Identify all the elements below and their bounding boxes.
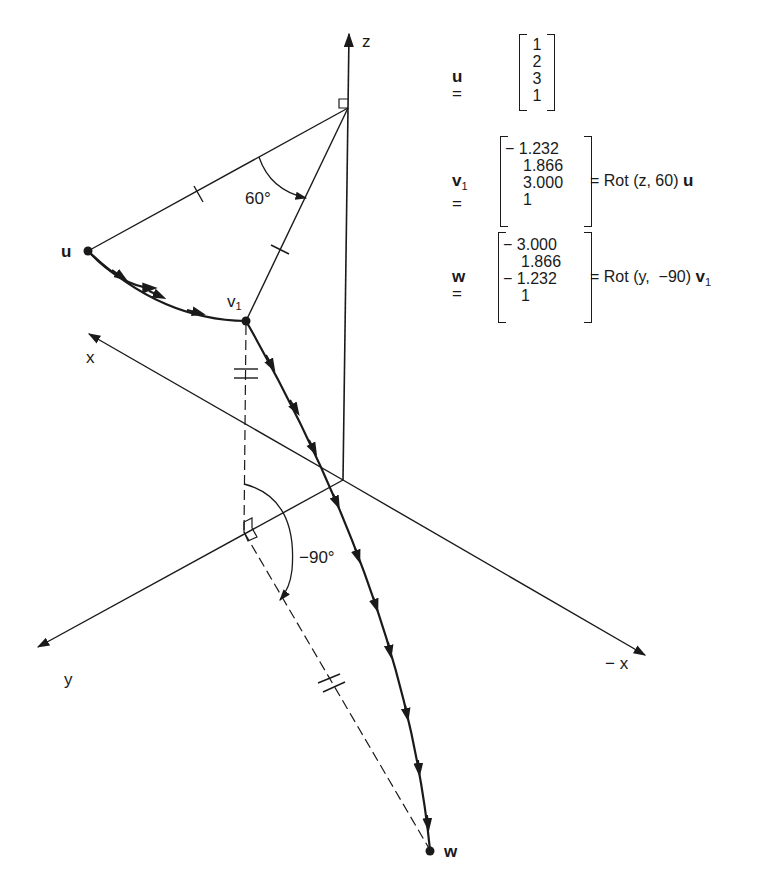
v1-component: 3.000	[505, 174, 585, 191]
y-axis	[38, 480, 343, 647]
path-u-to-v1	[88, 251, 150, 288]
v1-component: 1	[505, 191, 585, 208]
w-component: − 1.232	[503, 270, 585, 287]
double-tick-w-line	[318, 674, 345, 692]
u-component: 2	[523, 53, 551, 70]
u-component: 1	[523, 87, 551, 104]
angle-neg90-label: −90°	[299, 548, 335, 567]
eq-u-equals: =	[452, 84, 462, 103]
neg-x-axis-label: − x	[605, 654, 629, 673]
point-u	[84, 247, 93, 256]
x-axis-label: x	[86, 348, 95, 367]
vector-v1-matrix: − 1.232 1.866 3.000 1	[500, 136, 592, 227]
eq-v1-equals: =	[452, 194, 462, 213]
u-component: 1	[523, 36, 551, 53]
u-component: 3	[523, 70, 551, 87]
radius-to-u	[88, 108, 348, 251]
z-axis-label: z	[362, 32, 371, 51]
tick-mark-v1-radius	[271, 245, 289, 254]
path-v1-to-w	[246, 321, 430, 850]
angle-60-label: 60°	[245, 189, 271, 208]
v1-component: 1.866	[505, 157, 585, 174]
angle-arc-neg90	[244, 484, 293, 600]
z-axis	[343, 34, 349, 480]
w-rotation-expression: = Rot (y, −90) v1	[590, 268, 711, 291]
v1-rotation-expression: = Rot (z, 60) u	[590, 172, 693, 189]
w-component: 1.866	[503, 253, 585, 270]
dashed-v1-drop	[244, 325, 246, 532]
right-angle-marker-z	[339, 99, 348, 108]
radius-to-v1	[246, 108, 348, 321]
w-label: w	[443, 842, 458, 861]
rotation-diagram: z x − x y u v1 w 60° −90°	[0, 0, 774, 884]
neg-x-axis	[343, 480, 645, 655]
y-axis-label: y	[64, 670, 73, 689]
point-v1	[242, 317, 251, 326]
path-u-v1-arc	[88, 251, 246, 321]
arrowhead	[149, 291, 160, 296]
vector-u-matrix: 1 2 3 1	[519, 34, 555, 111]
x-axis	[89, 334, 343, 480]
w-component: 1	[503, 287, 585, 304]
vector-w-matrix: − 3.000 1.866 − 1.232 1	[498, 232, 592, 323]
w-component: − 3.000	[503, 236, 585, 253]
u-label: u	[61, 242, 71, 261]
eq-w-equals: =	[452, 284, 462, 303]
path-v1-w-arrows	[266, 355, 428, 825]
right-angle-marker-y	[244, 518, 257, 541]
v1-component: − 1.232	[505, 140, 585, 157]
v1-label: v1	[227, 292, 242, 312]
point-w	[426, 847, 435, 856]
